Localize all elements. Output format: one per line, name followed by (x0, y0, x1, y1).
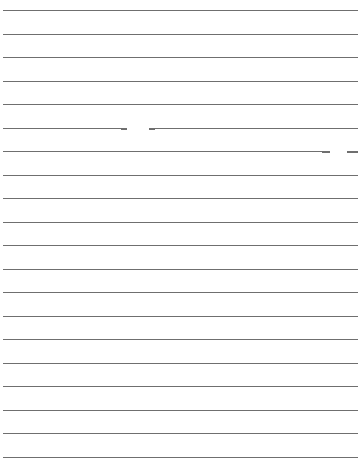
ruled-line (3, 363, 358, 364)
line-break-mark (322, 151, 330, 153)
ruled-line (3, 269, 358, 270)
ruled-line (3, 410, 358, 411)
ruled-line (3, 222, 358, 223)
ruled-line (3, 198, 358, 199)
ruled-line (3, 175, 358, 176)
ruled-line (3, 457, 358, 458)
line-break-mark (149, 128, 155, 130)
ruled-line (3, 433, 358, 434)
line-break-mark (121, 128, 127, 130)
ruled-line (3, 316, 358, 317)
ruled-line (3, 151, 330, 152)
ruled-line (3, 245, 358, 246)
ruled-line (3, 34, 358, 35)
lined-paper-sheet (0, 0, 360, 471)
ruled-line (3, 57, 358, 58)
ruled-line (3, 104, 358, 105)
ruled-line (149, 128, 358, 129)
line-dash-fragment (347, 151, 358, 153)
ruled-line (3, 81, 358, 82)
ruled-line (3, 339, 358, 340)
ruled-line (3, 10, 358, 11)
ruled-line (3, 386, 358, 387)
ruled-line (3, 292, 358, 293)
ruled-line (3, 128, 127, 129)
